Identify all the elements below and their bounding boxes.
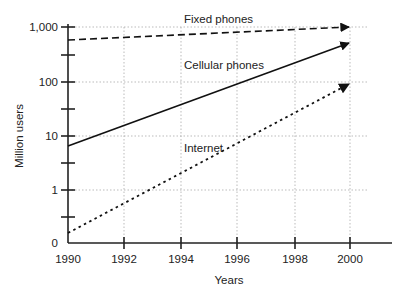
- y-tick-label: 1: [52, 184, 58, 196]
- axes: [61, 24, 392, 249]
- x-tick-labels: 1990 1992 1994 1996 1998 2000: [55, 253, 363, 265]
- x-axis-title: Years: [215, 274, 244, 286]
- y-tick-label: 100: [39, 76, 58, 88]
- x-tick-label: 1998: [282, 253, 308, 265]
- x-tick-label: 1994: [168, 253, 194, 265]
- x-tick-label: 2000: [337, 253, 363, 265]
- y-tick-label: 10: [45, 130, 58, 142]
- x-tick-label: 1996: [224, 253, 250, 265]
- label-cellular-phones: Cellular phones: [184, 59, 264, 71]
- y-tick-labels: 1,000 100 10 1 0: [29, 21, 58, 249]
- x-tick-label: 1990: [55, 253, 81, 265]
- x-tick-label: 1992: [111, 253, 137, 265]
- y-tick-label: 0: [52, 237, 58, 249]
- label-internet: Internet: [184, 142, 224, 154]
- y-axis-title: Million users: [13, 104, 25, 168]
- label-fixed-phones: Fixed phones: [184, 13, 253, 25]
- y-tick-label: 1,000: [29, 21, 58, 33]
- chart: 1,000 100 10 1 0 1990 1992 1994 1996 199…: [0, 0, 408, 299]
- series-fixed-phones: [68, 27, 349, 40]
- series-internet: [68, 84, 349, 233]
